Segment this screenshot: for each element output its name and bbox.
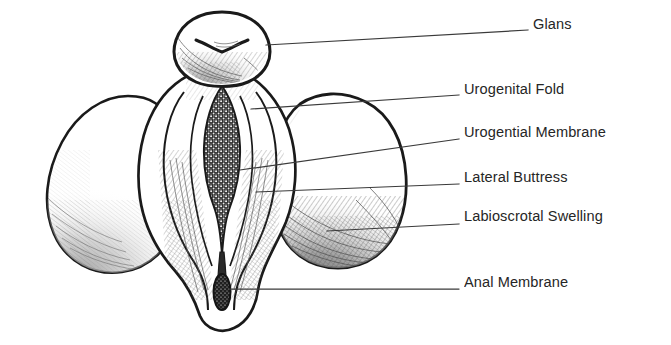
anatomical-illustration	[0, 0, 671, 345]
leader-line-glans	[266, 30, 528, 45]
label-urogenital-fold: Urogenital Fold	[464, 80, 564, 98]
label-labioscrotal-swelling: Labioscrotal Swelling	[464, 207, 603, 225]
central-shaft	[138, 72, 295, 331]
label-anal-membrane: Anal Membrane	[464, 273, 568, 291]
figure-canvas: Glans Urogenital Fold Urogential Membran…	[0, 0, 671, 345]
label-urogential-membrane: Urogential Membrane	[464, 123, 606, 141]
label-lateral-buttress: Lateral Buttress	[464, 168, 568, 186]
label-glans: Glans	[533, 15, 572, 33]
anal-membrane	[214, 274, 231, 310]
